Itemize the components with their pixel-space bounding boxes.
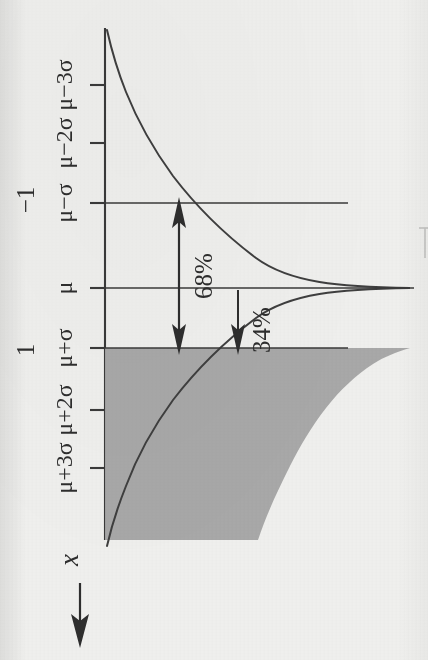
tick-label-mu-plus-3sigma: μ+3σ [51, 442, 77, 493]
interval-34-label: 34% [248, 307, 275, 353]
tick-label-mu-plus-2sigma: μ+2σ [51, 384, 77, 435]
tick-label-mu-minus-2sigma: μ−2σ [51, 117, 77, 168]
tick-label-mu: μ [51, 282, 77, 295]
interval-68-label: 68% [190, 253, 217, 299]
axis-label-x: x [54, 554, 84, 567]
interval-34-annotation: 34% [231, 290, 275, 355]
tick-label-mu-minus-sigma: μ−σ [51, 183, 77, 222]
cropped-edge-mark [419, 228, 428, 258]
tick-labels: μ−3σ μ−2σ μ−σ μ μ+σ μ+2σ μ+3σ [51, 59, 77, 493]
shaded-tail-region [105, 348, 410, 540]
axis-ticks [90, 85, 105, 468]
sigma-label-minus-one: −1 [12, 187, 39, 214]
sigma-label-plus-one: 1 [12, 344, 39, 357]
sigma-unit-labels: −1 1 [12, 187, 39, 357]
figure-svg: 68% 34% μ−3σ μ−2σ μ−σ μ μ+σ μ+2σ μ+3σ −1… [0, 0, 428, 660]
tick-label-mu-minus-3sigma: μ−3σ [51, 59, 77, 110]
tick-label-mu-plus-sigma: μ+σ [51, 328, 77, 367]
interval-68-annotation: 68% [172, 197, 217, 355]
normal-distribution-figure: 68% 34% μ−3σ μ−2σ μ−σ μ μ+σ μ+2σ μ+3σ −1… [0, 0, 428, 660]
axis-label-group: x [54, 554, 89, 648]
